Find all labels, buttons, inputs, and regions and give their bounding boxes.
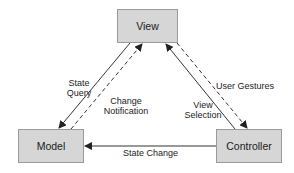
model-label: Model	[37, 140, 66, 152]
state-query-label: State Query	[60, 78, 98, 98]
view-selection-label: View Selection	[178, 100, 228, 120]
view-label: View	[136, 20, 159, 32]
change-notification-label: Change Notification	[98, 96, 154, 116]
state-change-label: State Change	[123, 148, 178, 158]
mvc-diagram: View Model Controller State Query Change…	[0, 0, 294, 173]
controller-label: Controller	[226, 140, 272, 152]
user-gestures-label: User Gestures	[216, 81, 274, 91]
view-box: View	[117, 9, 178, 43]
controller-box: Controller	[216, 129, 282, 163]
model-box: Model	[18, 129, 84, 163]
